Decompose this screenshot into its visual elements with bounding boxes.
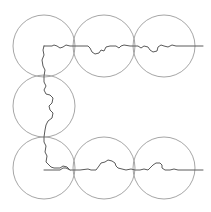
circle-group (13, 15, 195, 199)
circle-bottom-right (133, 137, 195, 199)
path-vertical-branch (42, 46, 70, 170)
circles-path-diagram (0, 0, 211, 212)
circle-middle-left (13, 75, 75, 137)
path-group (42, 45, 203, 170)
circle-bottom-middle (73, 137, 135, 199)
path-top-branch (44, 45, 203, 54)
path-bottom-branch (44, 160, 203, 170)
